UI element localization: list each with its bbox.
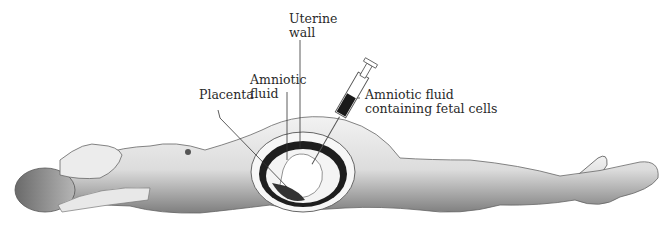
amniocentesis-diagram: Uterine wall Amniotic fluid Placenta Amn… [0, 0, 670, 231]
label-amniotic-fluid: Amniotic fluid [250, 73, 306, 101]
label-syringe-contents: Amniotic fluid containing fetal cells [365, 88, 497, 116]
label-uterine-wall: Uterine wall [289, 12, 337, 40]
body [60, 117, 658, 213]
label-placenta: Placenta [199, 88, 254, 102]
breast [185, 149, 191, 155]
